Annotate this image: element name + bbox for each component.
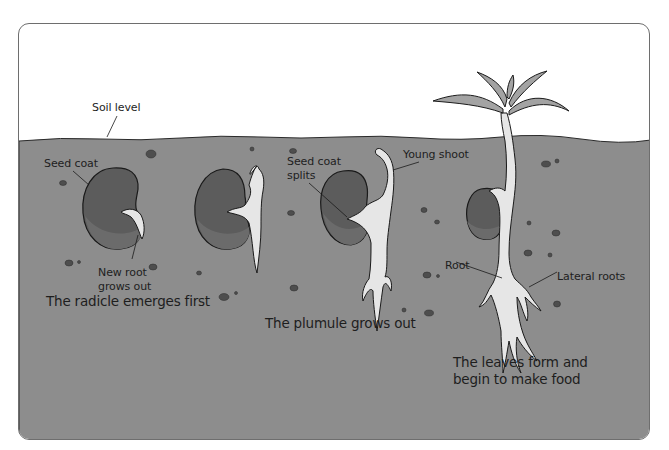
label-root: Root — [445, 259, 470, 272]
caption-stage-1: The radicle emerges first — [46, 292, 210, 310]
label-seed-coat-splits-2: splits — [287, 169, 315, 182]
label-new-root-1: New root — [98, 266, 147, 279]
label-lateral-roots: Lateral roots — [557, 270, 625, 283]
label-seed-coat-splits-1: Seed coat — [287, 155, 341, 168]
seed-stage-1 — [83, 168, 144, 249]
caption-stage-3-line2: begin to make food — [453, 370, 581, 388]
caption-stage-2: The plumule grows out — [265, 314, 416, 332]
diagram-frame: Soil level Seed coat New root grows out … — [18, 23, 650, 440]
label-young-shoot: Young shoot — [403, 148, 469, 161]
caption-stage-3-line1: The leaves form and — [453, 353, 588, 371]
label-seed-coat: Seed coat — [44, 157, 98, 170]
label-soil-level: Soil level — [92, 101, 140, 114]
